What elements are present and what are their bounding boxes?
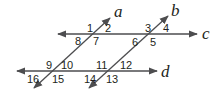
label-line-a: a <box>114 2 123 21</box>
angle-4: 4 <box>163 22 169 34</box>
angle-2: 2 <box>105 22 111 34</box>
label-line-d: d <box>161 62 170 81</box>
line-a <box>34 18 110 88</box>
angle-8: 8 <box>75 35 81 47</box>
angle-5: 5 <box>150 36 156 48</box>
angle-12: 12 <box>120 59 132 71</box>
angle-13: 13 <box>106 73 118 85</box>
angle-7: 7 <box>93 35 99 47</box>
angle-11: 11 <box>96 59 107 71</box>
angle-9: 9 <box>46 59 52 71</box>
angle-16: 16 <box>27 73 39 85</box>
label-line-c: c <box>202 24 210 43</box>
angle-15: 15 <box>52 73 64 85</box>
angle-6: 6 <box>132 36 138 48</box>
diagram-canvas: a b c d 1 2 7 8 3 4 5 6 9 10 15 16 11 12… <box>0 0 215 94</box>
angle-14: 14 <box>84 73 96 85</box>
angle-3: 3 <box>145 22 151 34</box>
angle-10: 10 <box>61 59 73 71</box>
angle-1: 1 <box>87 22 93 34</box>
label-line-b: b <box>171 1 180 20</box>
